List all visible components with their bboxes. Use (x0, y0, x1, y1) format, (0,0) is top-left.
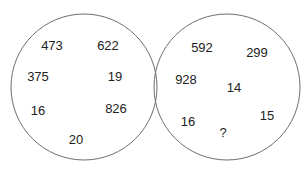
right-number: 16 (181, 114, 195, 129)
left-circle (11, 14, 157, 160)
right-circle-group: 592 299 928 14 16 ? 15 (154, 14, 300, 160)
right-number: 592 (191, 40, 213, 55)
puzzle-diagram: 473 622 375 19 16 826 20 592 299 928 14 … (0, 0, 307, 170)
left-number: 16 (31, 103, 45, 118)
left-number: 19 (108, 69, 122, 84)
left-number: 826 (105, 101, 127, 116)
left-number: 20 (69, 132, 83, 147)
right-number: 299 (246, 45, 268, 60)
left-number: 375 (27, 69, 49, 84)
right-number: 14 (227, 80, 241, 95)
right-number: 928 (175, 72, 197, 87)
left-number: 473 (41, 38, 63, 53)
right-number: 15 (260, 108, 274, 123)
left-circle-group: 473 622 375 19 16 826 20 (11, 14, 157, 160)
missing-number-question-mark: ? (219, 125, 226, 140)
left-number: 622 (97, 38, 119, 53)
